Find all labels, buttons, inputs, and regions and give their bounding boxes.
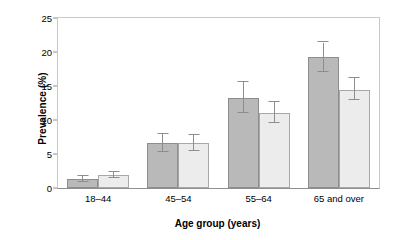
error-bar-cap-upper [188, 134, 199, 135]
error-bar-cap-lower [269, 122, 280, 123]
y-axis-tick-label: 0 [0, 183, 52, 194]
y-axis-tick-label: 10 [0, 115, 52, 126]
y-axis-tick-label: 5 [0, 149, 52, 160]
bar-group [219, 18, 299, 188]
error-bar-cap-upper [108, 171, 119, 172]
bar-group [299, 18, 379, 188]
error-bar-cap-upper [318, 41, 329, 42]
bar-series-2 [259, 113, 290, 188]
error-bar-line [323, 43, 324, 73]
error-bar-line [354, 78, 355, 100]
error-bar-cap-upper [238, 81, 249, 82]
bar-group [138, 18, 218, 188]
error-bar-cap-lower [108, 177, 119, 178]
x-axis-tick-label: 18–44 [85, 193, 111, 204]
error-bar-line [274, 102, 275, 123]
error-bar-cap-lower [77, 181, 88, 182]
x-axis-tick-label: 55–64 [245, 193, 271, 204]
y-axis-tick-label: 15 [0, 81, 52, 92]
error-bar-cap-upper [269, 101, 280, 102]
error-bar-cap-lower [318, 71, 329, 72]
error-bar-line [193, 135, 194, 151]
x-axis-title: Age group (years) [55, 218, 380, 229]
error-bar-cap-lower [238, 112, 249, 113]
plot-area [58, 18, 379, 188]
prevalence-by-age-bar-chart: Prevalence (%) 0510152025 18–4445–5455–6… [0, 0, 400, 240]
error-bar-cap-upper [157, 133, 168, 134]
x-axis-tick-label: 65 and over [314, 193, 364, 204]
error-bar-cap-lower [188, 150, 199, 151]
error-bar-cap-lower [157, 151, 168, 152]
error-bar-cap-upper [349, 77, 360, 78]
bar-group [58, 18, 138, 188]
error-bar-line [162, 134, 163, 152]
x-axis-tick-label: 45–54 [165, 193, 191, 204]
error-bar-line [243, 82, 244, 113]
y-axis-tick-label: 25 [0, 13, 52, 24]
bar-series-1 [308, 57, 339, 188]
error-bar-cap-upper [77, 175, 88, 176]
error-bar-cap-lower [349, 99, 360, 100]
y-axis-tick-label: 20 [0, 47, 52, 58]
bar-series-2 [339, 90, 370, 188]
